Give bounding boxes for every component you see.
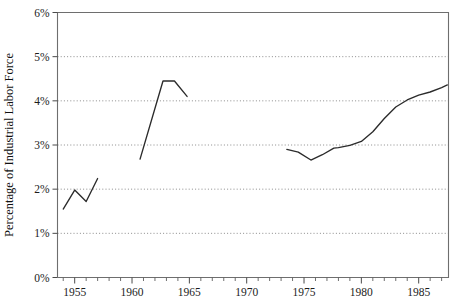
y-tick-label-1%: 1% [34, 227, 50, 239]
chart-container: 1955196019651970197519801985 0%1%2%3%4%5… [0, 0, 465, 305]
x-tick-label-1980: 1980 [350, 286, 373, 298]
line-chart: 1955196019651970197519801985 0%1%2%3%4%5… [0, 0, 465, 305]
y-tick-label-6%: 6% [34, 7, 50, 19]
x-axis-tick-labels: 1955196019651970197519801985 [63, 286, 430, 298]
x-axis-ticks [63, 278, 441, 284]
data-line-segment-2 [140, 81, 187, 159]
y-axis-ticks [53, 13, 58, 278]
data-line-segment-1 [63, 179, 97, 209]
data-series-group [63, 81, 447, 209]
y-tick-label-0%: 0% [34, 272, 50, 284]
gridlines [58, 57, 449, 234]
y-axis-tick-labels: 0%1%2%3%4%5%6% [34, 7, 50, 284]
x-tick-label-1960: 1960 [121, 286, 144, 298]
x-tick-label-1955: 1955 [63, 286, 86, 298]
y-tick-label-4%: 4% [34, 95, 50, 107]
x-tick-label-1975: 1975 [293, 286, 316, 298]
y-tick-label-5%: 5% [34, 51, 50, 63]
x-tick-label-1970: 1970 [235, 286, 258, 298]
x-tick-label-1965: 1965 [178, 286, 201, 298]
x-tick-label-1985: 1985 [407, 286, 430, 298]
y-tick-label-3%: 3% [34, 139, 50, 151]
y-axis-title-text: Percentage of Industrial Labor Force [2, 53, 16, 237]
y-tick-label-2%: 2% [34, 183, 50, 195]
y-axis-title: Percentage of Industrial Labor Force [2, 53, 16, 237]
data-line-segment-3 [287, 85, 448, 160]
